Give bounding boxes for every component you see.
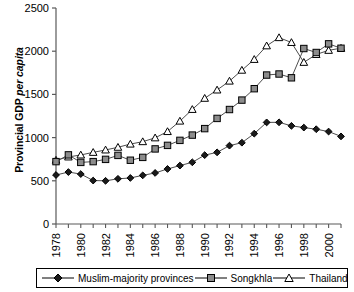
legend-label: Thailand — [309, 273, 347, 284]
x-tick-label: 1990 — [199, 233, 211, 257]
legend-label: Songkhla — [231, 273, 273, 284]
open-triangle-icon — [272, 271, 306, 285]
data-point — [65, 169, 72, 176]
legend-item-muslim-majority-provinces[interactable]: Muslim-majority provinces — [41, 271, 194, 285]
data-point — [338, 45, 344, 51]
data-point — [115, 175, 122, 182]
data-point — [275, 34, 283, 41]
x-tick-label: 1998 — [298, 233, 310, 257]
y-tick-label: 2500 — [25, 2, 49, 14]
data-point — [152, 146, 158, 152]
legend-item-thailand[interactable]: Thailand — [272, 271, 347, 285]
data-point — [164, 166, 171, 173]
data-point — [263, 42, 271, 49]
data-point — [189, 159, 196, 166]
x-tick-label: 1982 — [100, 233, 112, 257]
filled-diamond-icon — [41, 271, 75, 285]
data-point — [313, 126, 320, 133]
series-thailand — [52, 34, 345, 163]
chart-figure: Provincial GDP per capita 05001000150020… — [0, 0, 354, 292]
data-point — [300, 59, 308, 66]
x-tick-label: 1986 — [149, 233, 161, 257]
data-point — [102, 156, 108, 162]
data-point — [127, 175, 134, 182]
y-tick-label: 0 — [43, 218, 49, 230]
data-point — [189, 132, 195, 138]
data-point — [301, 45, 307, 51]
data-point — [152, 170, 159, 177]
data-point — [53, 172, 60, 179]
data-point — [288, 122, 295, 129]
data-point — [77, 171, 84, 178]
data-point — [276, 119, 283, 126]
data-point — [226, 142, 233, 149]
legend-label: Muslim-majority provinces — [78, 273, 194, 284]
data-point — [238, 139, 245, 146]
data-point — [263, 72, 269, 78]
data-point — [102, 177, 109, 184]
data-point — [115, 152, 121, 158]
data-point — [313, 49, 319, 55]
y-tick-label: 2000 — [25, 45, 49, 57]
data-point — [151, 134, 159, 141]
plot-area: 0500100015002000250019781980198219841986… — [0, 0, 354, 268]
series-songkhla — [53, 41, 344, 166]
legend-item-songkhla[interactable]: Songkhla — [194, 271, 273, 285]
data-point — [201, 94, 209, 101]
data-point — [226, 106, 232, 112]
y-tick-label: 1500 — [25, 88, 49, 100]
data-point — [201, 125, 207, 131]
data-point — [288, 75, 294, 81]
data-point — [90, 177, 97, 184]
x-tick-label: 1988 — [174, 233, 186, 257]
x-tick-label: 1994 — [248, 233, 260, 257]
y-tick-label: 1000 — [25, 132, 49, 144]
data-point — [214, 115, 220, 121]
data-point — [288, 39, 296, 46]
data-point — [78, 159, 84, 165]
data-point — [201, 152, 208, 159]
data-point — [325, 41, 331, 47]
data-point — [214, 149, 221, 156]
data-point — [251, 85, 257, 91]
data-point — [239, 97, 245, 103]
x-tick-label: 1996 — [273, 233, 285, 257]
data-point — [213, 86, 221, 93]
x-tick-label: 1978 — [50, 233, 62, 257]
data-point — [127, 157, 133, 163]
data-point — [65, 152, 71, 158]
data-point — [139, 172, 146, 179]
data-point — [325, 128, 332, 135]
filled-square-icon — [194, 271, 228, 285]
data-point — [140, 154, 146, 160]
data-point — [177, 162, 184, 169]
chart-legend: Muslim-majority provinces Songkhla Thail… — [36, 268, 348, 288]
x-tick-label: 1980 — [75, 233, 87, 257]
x-tick-label: 1984 — [124, 233, 136, 257]
data-point — [164, 142, 170, 148]
x-tick-label: 1992 — [223, 233, 235, 257]
data-point — [338, 133, 345, 140]
data-point — [276, 71, 282, 77]
data-point — [177, 137, 183, 143]
data-point — [53, 158, 59, 164]
data-point — [90, 158, 96, 164]
data-point — [300, 124, 307, 131]
x-tick-label: 2000 — [323, 233, 335, 257]
y-tick-label: 500 — [31, 175, 49, 187]
